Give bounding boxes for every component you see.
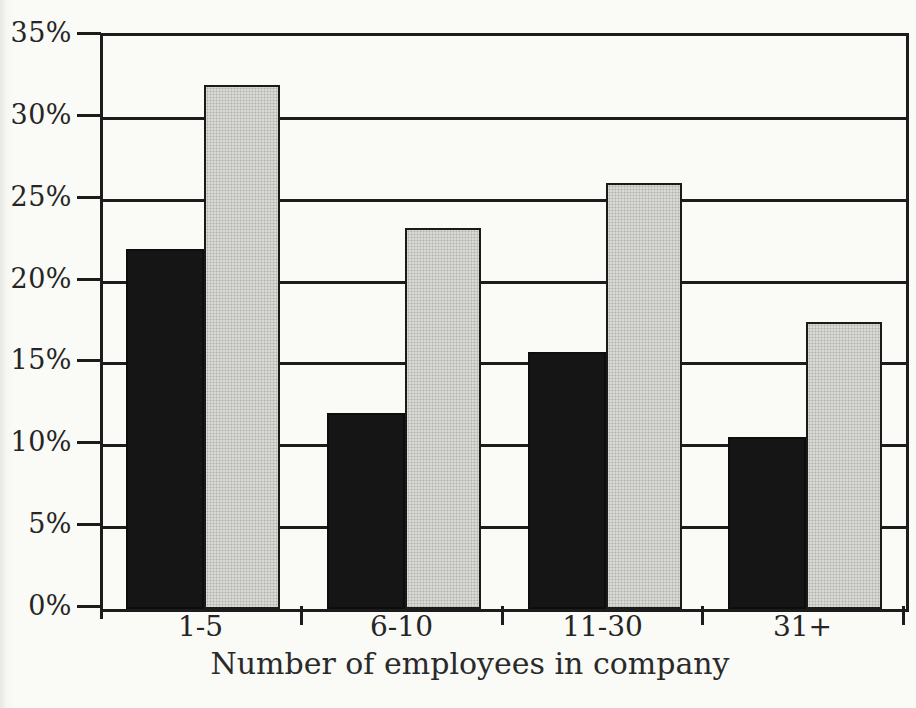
bar-light-gray-1-5 (204, 85, 280, 609)
y-axis-tick-5 (77, 523, 101, 526)
bar-light-gray-6-10 (405, 228, 481, 609)
y-axis-tick-35 (77, 32, 101, 35)
bar-chart-figure: 0%5%10%15%20%25%30%35%1-56-1011-3031+ Nu… (0, 0, 916, 708)
y-axis-tick-25 (77, 196, 101, 199)
y-tick-label-20: 20% (0, 263, 72, 295)
y-axis-tick-15 (77, 359, 101, 362)
y-tick-label-30: 30% (0, 99, 72, 131)
y-tick-label-5: 5% (0, 508, 72, 540)
x-category-label-31+: 31+ (702, 611, 903, 643)
y-axis-tick-10 (77, 441, 101, 444)
bar-black-31+ (728, 437, 806, 609)
y-tick-label-15: 15% (0, 344, 72, 376)
x-category-label-6-10: 6-10 (301, 611, 502, 643)
y-tick-label-10: 10% (0, 426, 72, 458)
bar-light-gray-11-30 (606, 183, 682, 609)
y-tick-label-0: 0% (0, 590, 72, 622)
y-axis-tail (100, 609, 103, 619)
bar-black-11-30 (528, 352, 606, 609)
y-axis-tick-0 (77, 605, 101, 608)
x-category-label-1-5: 1-5 (100, 611, 301, 643)
y-tick-label-35: 35% (0, 17, 72, 49)
bar-black-1-5 (126, 249, 204, 609)
plot-area (100, 33, 909, 612)
y-tick-label-25: 25% (0, 181, 72, 213)
x-axis-title: Number of employees in company (210, 646, 729, 681)
y-axis-tick-20 (77, 278, 101, 281)
bar-light-gray-31+ (806, 322, 882, 609)
x-category-label-11-30: 11-30 (502, 611, 703, 643)
bar-black-6-10 (327, 413, 405, 609)
y-axis-tick-30 (77, 114, 101, 117)
